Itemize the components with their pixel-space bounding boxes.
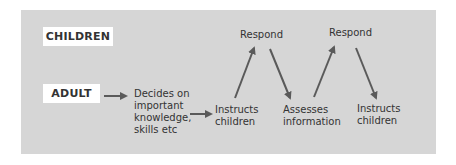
- node-assesses-information: Assesses information: [283, 104, 341, 128]
- node-instructs-1-line-2: children: [215, 116, 259, 128]
- adult-lane-label: ADULT: [43, 84, 100, 103]
- node-respond-1: Respond: [240, 29, 283, 41]
- node-decides-line-2: important: [134, 100, 191, 112]
- node-decides-line-1: Decides on: [134, 88, 191, 100]
- node-decides: Decides on important knowledge, skills e…: [134, 88, 191, 136]
- node-respond-2: Respond: [329, 27, 372, 39]
- node-instructs-2-line-2: children: [357, 115, 401, 127]
- node-decides-line-3: knowledge,: [134, 112, 191, 124]
- node-assesses-line-1: Assesses: [283, 104, 341, 116]
- node-instructs-children-2: Instructs children: [357, 103, 401, 127]
- node-instructs-1-line-1: Instructs: [215, 104, 259, 116]
- children-lane-label: CHILDREN: [43, 27, 113, 46]
- node-instructs-2-line-1: Instructs: [357, 103, 401, 115]
- node-decides-line-4: skills etc: [134, 124, 191, 136]
- node-assesses-line-2: information: [283, 116, 341, 128]
- node-instructs-children-1: Instructs children: [215, 104, 259, 128]
